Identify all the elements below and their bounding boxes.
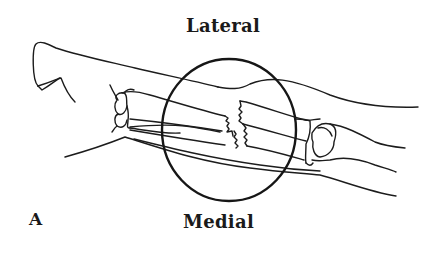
panel-label: A xyxy=(29,211,42,228)
forearm-fracture-diagram: Lateral Medial A xyxy=(0,0,445,254)
elbow-joint xyxy=(296,119,405,172)
forearm-lower-contour xyxy=(65,137,396,196)
medial-label: Medial xyxy=(183,213,254,231)
lateral-label: Lateral xyxy=(186,17,260,35)
